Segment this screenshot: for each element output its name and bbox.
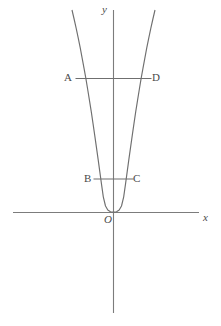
point-label-a: A <box>64 72 72 83</box>
x-axis-label: x <box>203 212 208 223</box>
origin-label: O <box>104 214 112 225</box>
y-axis-label: y <box>102 4 107 15</box>
point-label-d: D <box>152 72 160 83</box>
figure-canvas <box>0 0 221 326</box>
point-label-c: C <box>133 173 140 184</box>
point-label-b: B <box>84 173 91 184</box>
parabola-figure: A D B C O y x <box>0 0 221 326</box>
